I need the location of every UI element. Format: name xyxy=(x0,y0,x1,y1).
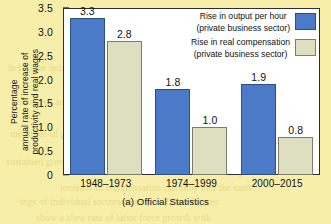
legend-item-real-compensation-line-2: (private business sector) xyxy=(191,49,290,61)
y-axis-tick-labels: 3.53.02.52.01.51.00.50 xyxy=(0,8,61,175)
legend-item-output-per-hour-line-2: (private business sector) xyxy=(196,23,290,35)
legend-item-real-compensation-text: Rise in real compensation (private busin… xyxy=(191,37,290,60)
y-tick-label: 2.0 xyxy=(38,74,53,86)
bar-value-label: 2.8 xyxy=(107,28,142,40)
y-tick-label: 0.5 xyxy=(38,145,53,157)
legend-item-output-per-hour-line-1: Rise in output per hour xyxy=(196,11,290,23)
bar-value-label: 0.8 xyxy=(278,124,313,136)
bar-value-label: 3.3 xyxy=(70,5,105,17)
bar-value-label: 1.8 xyxy=(155,76,190,88)
legend-swatch-output-per-hour xyxy=(295,13,316,30)
chart-legend: Rise in output per hour (private busines… xyxy=(150,11,316,63)
bar-value-label: 1.0 xyxy=(192,114,227,126)
figure-caption: (a) Official Statistics xyxy=(0,196,331,207)
legend-item-output-per-hour: Rise in output per hour (private busines… xyxy=(150,11,316,36)
bar xyxy=(241,84,276,175)
bar-value-label: 1.9 xyxy=(241,71,276,83)
y-tick-label: 3.0 xyxy=(38,26,53,38)
y-tick-label: 2.5 xyxy=(38,50,53,62)
y-tick-label: 3.5 xyxy=(38,2,53,14)
y-tick-label: 1.0 xyxy=(38,121,53,133)
bar xyxy=(192,127,227,175)
x-axis-label: 1974–1999 xyxy=(149,178,235,189)
figure-official-statistics: Percentage annual rate of increase of pr… xyxy=(0,0,331,224)
legend-item-real-compensation: Rise in real compensation (private busin… xyxy=(150,37,316,62)
bar xyxy=(155,89,190,175)
x-axis-label: 2000–2015 xyxy=(234,178,320,189)
legend-item-output-per-hour-text: Rise in output per hour (private busines… xyxy=(196,11,290,34)
x-axis-category-labels: 1948–19731974–19992000–2015 xyxy=(63,178,320,192)
bar xyxy=(70,18,105,175)
legend-swatch-real-compensation xyxy=(295,39,316,56)
y-tick-label: 0 xyxy=(47,169,53,181)
bar-group: 3.32.8 xyxy=(63,8,149,175)
bar xyxy=(107,41,142,175)
y-tick-label: 1.5 xyxy=(38,97,53,109)
bar xyxy=(278,137,313,175)
legend-item-real-compensation-line-1: Rise in real compensation xyxy=(191,37,290,49)
x-axis-label: 1948–1973 xyxy=(63,178,149,189)
